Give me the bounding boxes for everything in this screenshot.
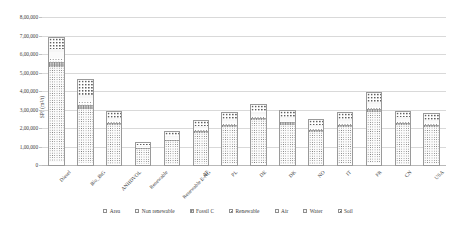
legend-swatch: [190, 209, 194, 213]
legend-swatch: [338, 209, 342, 213]
legend-label: Soil: [344, 208, 353, 214]
stacked-bar[interactable]: [279, 110, 295, 166]
bar-slot: [273, 18, 302, 166]
y-tick-label: 0: [35, 162, 38, 168]
y-tick-label: 7,00,000: [20, 33, 38, 39]
bar-segment: [222, 164, 236, 165]
x-label-slot: AT: [186, 167, 215, 203]
x-label-slot: IT: [331, 167, 360, 203]
chart-legend: AreaNon renewableFossil CRenewableAirWat…: [0, 208, 456, 214]
x-label-slot: DK: [273, 167, 302, 203]
bars-layer: [42, 18, 446, 166]
x-tick-label: AT: [201, 169, 210, 178]
bar-slot: [388, 18, 417, 166]
bar-segment: [424, 164, 438, 165]
stacked-bar[interactable]: [164, 131, 180, 166]
bar-segment: [136, 164, 150, 165]
stacked-bar[interactable]: [250, 104, 266, 166]
stacked-bar[interactable]: [106, 111, 122, 167]
spi-stacked-bar-chart: SPI (m²/t) 01,00,0002,00,0003,00,0004,00…: [0, 0, 456, 234]
stacked-bar[interactable]: [366, 92, 382, 166]
stacked-bar[interactable]: [221, 112, 237, 166]
bar-segment: [280, 125, 294, 164]
bar-segment: [49, 38, 63, 49]
bar-segment: [251, 163, 265, 165]
x-label-slot: PL: [215, 167, 244, 203]
bar-segment: [367, 112, 381, 163]
stacked-bar[interactable]: [48, 37, 64, 167]
bar-segment: [222, 127, 236, 164]
bar-slot: [100, 18, 129, 166]
legend-label: Fossil C: [196, 208, 214, 214]
legend-item[interactable]: Non renewable: [135, 208, 174, 214]
stacked-bar[interactable]: [77, 79, 93, 166]
stacked-bar[interactable]: [395, 111, 411, 167]
bar-segment: [78, 80, 92, 95]
x-label-slot: USA: [417, 167, 446, 203]
stacked-bar[interactable]: [193, 120, 209, 166]
legend-item[interactable]: Water: [303, 208, 322, 214]
x-label-slot: FR: [359, 167, 388, 203]
x-label-slot: Bio_BtG: [71, 167, 100, 203]
legend-label: Renewable: [236, 208, 260, 214]
bar-segment: [338, 127, 352, 164]
legend-label: Area: [110, 208, 121, 214]
bar-slot: [302, 18, 331, 166]
bar-segment: [396, 164, 410, 165]
legend-item[interactable]: Fossil C: [190, 208, 214, 214]
bar-slot: [42, 18, 71, 166]
x-label-slot: ANHDVOL: [100, 167, 129, 203]
bar-slot: [359, 18, 388, 166]
bar-segment: [107, 164, 121, 165]
x-tick-label: USA: [433, 169, 445, 181]
bar-segment: [78, 163, 92, 165]
x-label-slot: Renewable: [129, 167, 158, 203]
legend-label: Water: [310, 208, 323, 214]
stacked-bar[interactable]: [423, 113, 439, 166]
x-tick-label: DK: [288, 169, 298, 179]
legend-item[interactable]: Soil: [338, 208, 353, 214]
bar-segment: [309, 132, 323, 164]
legend-label: Non renewable: [142, 208, 175, 214]
bar-segment: [107, 125, 121, 163]
stacked-bar[interactable]: [308, 119, 324, 166]
x-label-slot: NO: [302, 167, 331, 203]
legend-label: Air: [281, 208, 288, 214]
bar-slot: [129, 18, 158, 166]
y-tick-label: 1,00,000: [20, 144, 38, 150]
x-tick-label: NO: [316, 169, 326, 179]
legend-swatch: [229, 209, 233, 213]
legend-item[interactable]: Renewable: [229, 208, 259, 214]
bar-segment: [165, 141, 179, 164]
legend-item[interactable]: Air: [275, 208, 289, 214]
bar-segment: [309, 164, 323, 165]
x-axis-labels: DieselBio_BtGANHDVOLRenewableRenewable E…: [42, 167, 446, 203]
bar-segment: [165, 164, 179, 165]
x-tick-label: PL: [229, 169, 238, 178]
bar-slot: [157, 18, 186, 166]
y-tick-label: 4,00,000: [20, 88, 38, 94]
bar-segment: [424, 127, 438, 163]
y-tick-label: 3,00,000: [20, 107, 38, 113]
x-tick-label: CN: [403, 169, 412, 178]
bar-segment: [251, 105, 265, 112]
legend-swatch: [303, 209, 307, 213]
bar-slot: [71, 18, 100, 166]
stacked-bar[interactable]: [135, 142, 151, 166]
x-label-slot: DE: [244, 167, 273, 203]
x-tick-label: IT: [344, 169, 352, 177]
bar-slot: [331, 18, 360, 166]
x-tick-label: DE: [258, 169, 267, 178]
legend-item[interactable]: Area: [103, 208, 120, 214]
bar-segment: [396, 125, 410, 163]
bar-segment: [194, 133, 208, 164]
bar-segment: [367, 93, 381, 102]
bar-segment: [280, 164, 294, 165]
bar-segment: [49, 162, 63, 165]
legend-swatch: [103, 209, 107, 213]
bar-segment: [78, 109, 92, 163]
stacked-bar[interactable]: [337, 112, 353, 166]
y-tick-label: 2,00,000: [20, 125, 38, 131]
plot-area: 01,00,0002,00,0003,00,0004,00,0005,00,00…: [42, 18, 446, 166]
bar-segment: [49, 67, 63, 162]
